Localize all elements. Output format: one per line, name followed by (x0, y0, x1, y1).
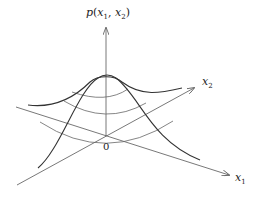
x2-axis-label: x2 (202, 75, 213, 90)
diagram-canvas (0, 0, 257, 197)
x2-profile-curve (28, 77, 182, 106)
x1-axis (16, 107, 229, 175)
vertical-axis-label: p(x1, x2) (86, 6, 130, 21)
density-diagram: p(x1, x2) x2 x1 0 (0, 0, 257, 197)
x1-axis-label: x1 (235, 171, 246, 186)
x2-axis (17, 88, 194, 185)
origin-label: 0 (103, 141, 109, 152)
